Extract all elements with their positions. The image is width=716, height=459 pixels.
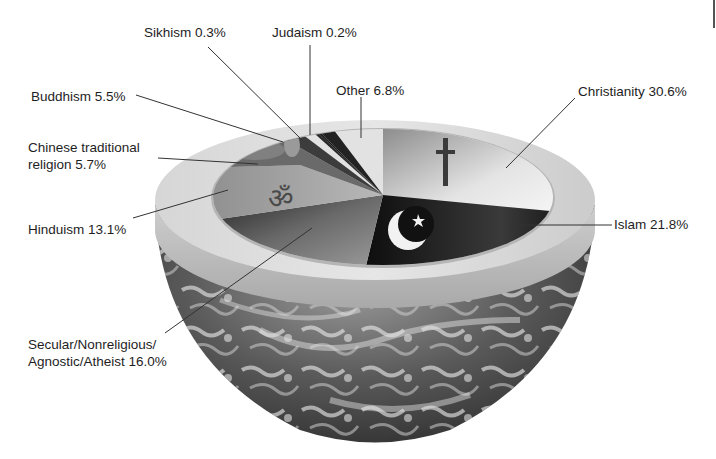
- label-secular-line1: Secular/Nonreligious/: [28, 336, 156, 353]
- label-secular-line2: Agnostic/Atheist 16.0%: [28, 353, 167, 370]
- edge-divider: [713, 0, 715, 28]
- cross-icon: [443, 138, 448, 186]
- label-judaism: Judaism 0.2%: [272, 24, 357, 41]
- chart-stage: ॐ Sikhism 0.3% Judaism 0.2%: [0, 0, 716, 459]
- leader-buddhism: [136, 95, 283, 142]
- leader-sikhism: [208, 47, 302, 140]
- label-chinese-line1: Chinese traditional: [28, 139, 140, 156]
- label-chinese-line2: religion 5.7%: [28, 156, 106, 173]
- label-buddhism: Buddhism 5.5%: [31, 88, 126, 105]
- label-hinduism: Hinduism 13.1%: [28, 221, 126, 238]
- om-icon: ॐ: [268, 182, 294, 215]
- label-other: Other 6.8%: [336, 82, 404, 99]
- label-sikhism: Sikhism 0.3%: [144, 24, 226, 41]
- label-christianity: Christianity 30.6%: [578, 83, 687, 100]
- label-islam: Islam 21.8%: [614, 216, 688, 233]
